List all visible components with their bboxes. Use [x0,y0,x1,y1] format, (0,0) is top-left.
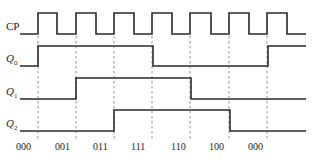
state-labels: 000001011111110100000 [16,141,263,152]
state-label: 111 [131,141,145,152]
signal-waveforms [20,13,306,131]
state-label: 000 [248,141,263,152]
state-label: 100 [209,141,224,152]
state-label: 110 [171,141,186,152]
waveform-q2 [20,110,306,131]
waveform-cp [20,13,306,34]
label-q2: Q2 [6,117,18,132]
state-label: 000 [16,141,31,152]
waveform-q0 [20,46,306,66]
label-q1: Q1 [6,85,18,100]
state-label: 001 [55,141,70,152]
label-cp: CP [6,20,19,32]
waveform-q1 [20,78,306,99]
signal-labels: CPQ0Q1Q2 [6,20,19,132]
timing-diagram: CPQ0Q1Q2 000001011111110100000 [0,0,319,162]
label-q0: Q0 [6,52,18,67]
state-label: 011 [93,141,108,152]
